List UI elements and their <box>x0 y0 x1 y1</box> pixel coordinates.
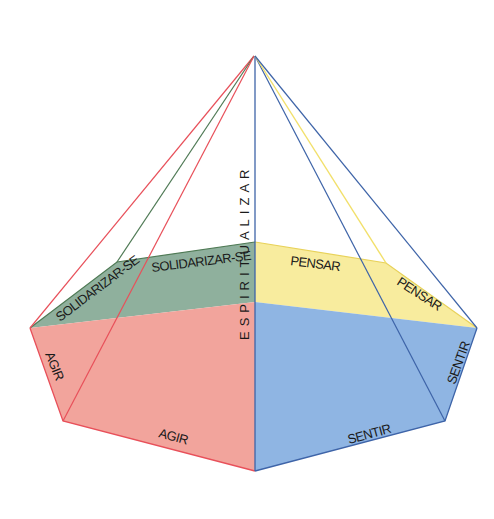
face-agir <box>30 302 255 471</box>
apex-line-yellow <box>255 56 386 263</box>
face-sentir <box>255 302 477 471</box>
apex-line-green <box>117 56 254 262</box>
pyramid-diagram: ESPIRITUALIZAR SOLIDARIZAR-SE SOLIDARIZA… <box>0 0 494 519</box>
